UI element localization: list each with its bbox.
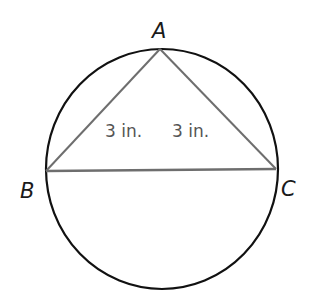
diagram-canvas: A B C 3 in. 3 in. (0, 0, 310, 305)
segment-ac (160, 49, 276, 169)
vertex-label-b: B (20, 179, 34, 203)
length-label-ac: 3 in. (172, 121, 209, 141)
vertex-label-a: A (150, 19, 166, 43)
segment-bc (46, 169, 276, 171)
vertex-label-c: C (281, 177, 296, 201)
length-label-ab: 3 in. (105, 121, 142, 141)
segment-ab (46, 49, 160, 171)
